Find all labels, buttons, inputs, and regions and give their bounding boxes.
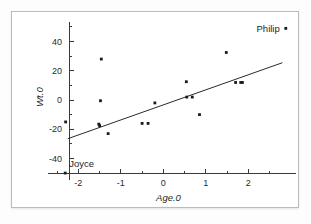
- point-label-philip: Philip: [257, 23, 280, 34]
- y-tick-label: -20: [49, 124, 62, 134]
- data-point: [234, 81, 237, 84]
- y-axis-title: Wt.0: [34, 87, 45, 107]
- data-point: [64, 121, 67, 124]
- x-tick-label: -2: [74, 178, 82, 188]
- data-point: [241, 81, 244, 84]
- y-tick-label: 0: [57, 95, 62, 105]
- data-point: [185, 80, 188, 83]
- point-label-joyce: Joyce: [69, 158, 94, 169]
- data-point: [225, 51, 228, 54]
- data-point: [100, 58, 103, 61]
- data-point: [198, 113, 201, 116]
- figure-root: -40-2002040-2-1012Age.0Wt.0JoycePhilip: [0, 0, 311, 224]
- scatter-plot: -40-2002040-2-1012Age.0Wt.0JoycePhilip: [12, 12, 298, 207]
- data-point: [185, 96, 188, 99]
- x-tick-label: 2: [246, 178, 251, 188]
- data-point: [107, 132, 110, 135]
- data-point: [191, 96, 194, 99]
- x-axis-title: Age.0: [155, 192, 182, 203]
- x-tick-label: 1: [203, 178, 208, 188]
- data-point: [153, 102, 156, 105]
- data-point: [147, 122, 150, 125]
- figure-frame: -40-2002040-2-1012Age.0Wt.0JoycePhilip: [11, 11, 299, 208]
- data-point: [98, 124, 101, 127]
- data-point: [64, 172, 67, 175]
- x-tick-label: -1: [117, 178, 125, 188]
- y-tick-label: 20: [52, 66, 62, 76]
- data-point: [99, 99, 102, 102]
- x-tick-label: 0: [161, 178, 166, 188]
- data-point: [141, 122, 144, 125]
- y-tick-label: -40: [49, 154, 62, 164]
- data-point: [284, 27, 287, 30]
- y-tick-label: 40: [52, 37, 62, 47]
